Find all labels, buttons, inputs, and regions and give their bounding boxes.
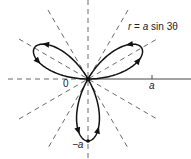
origin-point	[86, 77, 91, 82]
neg-tick-label: −a	[72, 139, 83, 150]
tip-point	[86, 139, 90, 143]
eq-rest: sin 3θ	[148, 21, 177, 32]
origin-label: 0	[63, 78, 69, 89]
eq-equals: =	[131, 21, 142, 32]
x-tick-label: a	[149, 80, 155, 91]
equation-label: r = a sin 3θ	[128, 21, 178, 32]
arrow-icon	[74, 127, 82, 136]
arrow-icon	[42, 41, 50, 48]
